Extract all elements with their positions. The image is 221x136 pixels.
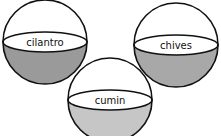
bowl-label: chives	[160, 40, 192, 51]
bowl-cumin: cumin	[68, 58, 152, 136]
bowl-label: cilantro	[26, 37, 63, 48]
bowls-diagram: cilantro chives cumin	[0, 0, 221, 136]
bowl-cilantro: cilantro	[3, 0, 87, 84]
bowl-chives: chives	[134, 3, 218, 87]
bowl-label: cumin	[95, 95, 126, 106]
